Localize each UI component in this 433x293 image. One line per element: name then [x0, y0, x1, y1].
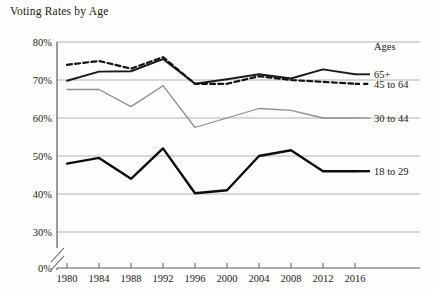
x-tick-label-1992: 1992 — [153, 273, 174, 284]
x-tick-label-2016: 2016 — [345, 273, 366, 284]
legend-entry-45-to-64[interactable]: 45 to 64 — [374, 78, 408, 89]
x-tick-label-2000: 2000 — [217, 273, 238, 284]
x-axis-tick-labels: 1980198419881992199620002004200820122016 — [0, 0, 433, 293]
legend-title: Ages — [374, 41, 396, 52]
x-tick-label-1980: 1980 — [57, 273, 78, 284]
chart-legend: Ages 65+45 to 6430 to 4418 to 29 — [372, 0, 433, 200]
legend-entry-30-to-44[interactable]: 30 to 44 — [374, 113, 408, 124]
x-tick-label-1984: 1984 — [89, 273, 110, 284]
x-tick-label-1988: 1988 — [121, 273, 142, 284]
x-tick-label-2008: 2008 — [281, 273, 302, 284]
chart-container: Voting Rates by Age 80%70%60%50%40%30%0%… — [0, 0, 433, 293]
x-tick-label-2012: 2012 — [313, 273, 334, 284]
legend-entry-18-to-29[interactable]: 18 to 29 — [374, 166, 408, 177]
x-tick-label-1996: 1996 — [185, 273, 206, 284]
x-tick-label-2004: 2004 — [249, 273, 270, 284]
